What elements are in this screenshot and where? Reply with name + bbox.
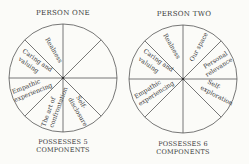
person-one-footer-line2: COMPONENTS	[18, 146, 108, 154]
person-one-center-dot	[62, 77, 65, 80]
segment-our-space: Our space	[188, 31, 210, 63]
person-one-footer: POSSESSES 5 COMPONENTS	[18, 138, 108, 154]
person-two-footer: POSSESSES 6 COMPONENTS	[138, 140, 228, 156]
person-two-center-dot	[182, 78, 185, 81]
person-two-footer-line1: POSSESSES 6	[138, 140, 228, 148]
segment-realness: Realness	[162, 32, 182, 60]
person-one-labels: Realness Caring and valuing Empathic exp…	[11, 36, 90, 128]
person-two-labels: Realness Caring and valuing Empathic exp…	[133, 31, 234, 108]
segment-realness: Realness	[44, 36, 64, 64]
person-two-footer-line2: COMPONENTS	[138, 148, 228, 156]
person-one-footer-line1: POSSESSES 5	[18, 138, 108, 146]
